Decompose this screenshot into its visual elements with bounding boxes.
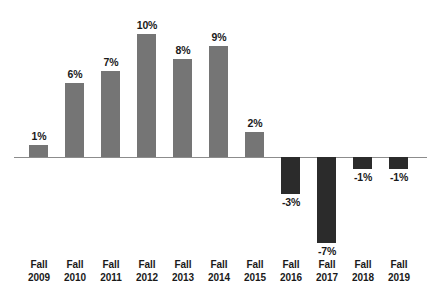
plot-area: 1%6%7%10%8%9%2%-3%-7%-1%-1% bbox=[0, 0, 436, 255]
category-label-line: Fall bbox=[237, 258, 273, 271]
category-label-line: 2009 bbox=[21, 271, 57, 284]
bar-group: 1% bbox=[21, 0, 57, 255]
category-label-line: Fall bbox=[165, 258, 201, 271]
bar[interactable] bbox=[101, 71, 120, 157]
bar[interactable] bbox=[209, 46, 228, 157]
category-label-line: 2014 bbox=[201, 271, 237, 284]
category-label-line: 2012 bbox=[129, 271, 165, 284]
bar[interactable] bbox=[173, 59, 192, 157]
bar-value-label: -3% bbox=[273, 196, 309, 208]
category-label-line: 2010 bbox=[57, 271, 93, 284]
bar[interactable] bbox=[317, 157, 336, 243]
bar-value-label: 10% bbox=[129, 19, 165, 31]
bar[interactable] bbox=[29, 145, 48, 157]
bar-value-label: 2% bbox=[237, 117, 273, 129]
bar-value-label: 1% bbox=[21, 130, 57, 142]
category-label: Fall2014 bbox=[201, 258, 237, 284]
category-label-line: 2019 bbox=[381, 271, 417, 284]
category-label-line: Fall bbox=[381, 258, 417, 271]
bar-chart: 1%6%7%10%8%9%2%-3%-7%-1%-1% Fall2009Fall… bbox=[0, 0, 436, 302]
category-label-line: 2016 bbox=[273, 271, 309, 284]
bar-value-label: 9% bbox=[201, 31, 237, 43]
category-label-line: Fall bbox=[273, 258, 309, 271]
bar-group: -1% bbox=[381, 0, 417, 255]
bar[interactable] bbox=[353, 157, 372, 169]
bar[interactable] bbox=[65, 83, 84, 157]
bar-group: 10% bbox=[129, 0, 165, 255]
bar-group: 2% bbox=[237, 0, 273, 255]
category-label-line: Fall bbox=[57, 258, 93, 271]
category-label: Fall2018 bbox=[345, 258, 381, 284]
bar[interactable] bbox=[389, 157, 408, 169]
bar-value-label: -7% bbox=[309, 245, 345, 257]
category-label: Fall2010 bbox=[57, 258, 93, 284]
category-label-line: Fall bbox=[345, 258, 381, 271]
bar-group: 7% bbox=[93, 0, 129, 255]
bar-group: -1% bbox=[345, 0, 381, 255]
category-label-line: 2011 bbox=[93, 271, 129, 284]
category-label: Fall2011 bbox=[93, 258, 129, 284]
category-label: Fall2013 bbox=[165, 258, 201, 284]
bar-value-label: 6% bbox=[57, 68, 93, 80]
category-label: Fall2019 bbox=[381, 258, 417, 284]
bar-value-label: -1% bbox=[345, 171, 381, 183]
bar-group: 9% bbox=[201, 0, 237, 255]
category-label-line: 2018 bbox=[345, 271, 381, 284]
category-label-line: 2013 bbox=[165, 271, 201, 284]
category-label: Fall2016 bbox=[273, 258, 309, 284]
bar-group: 8% bbox=[165, 0, 201, 255]
category-label-line: 2015 bbox=[237, 271, 273, 284]
category-label-line: Fall bbox=[309, 258, 345, 271]
bar-group: 6% bbox=[57, 0, 93, 255]
bar[interactable] bbox=[245, 132, 264, 157]
bar-group: -3% bbox=[273, 0, 309, 255]
bar[interactable] bbox=[281, 157, 300, 194]
bar[interactable] bbox=[137, 34, 156, 157]
category-label-line: 2017 bbox=[309, 271, 345, 284]
category-label: Fall2017 bbox=[309, 258, 345, 284]
bar-value-label: 8% bbox=[165, 44, 201, 56]
category-label-line: Fall bbox=[21, 258, 57, 271]
bar-group: -7% bbox=[309, 0, 345, 255]
category-axis: Fall2009Fall2010Fall2011Fall2012Fall2013… bbox=[0, 258, 436, 302]
bar-value-label: -1% bbox=[381, 171, 417, 183]
category-label-line: Fall bbox=[201, 258, 237, 271]
category-label: Fall2015 bbox=[237, 258, 273, 284]
category-label: Fall2012 bbox=[129, 258, 165, 284]
category-label-line: Fall bbox=[93, 258, 129, 271]
bar-value-label: 7% bbox=[93, 56, 129, 68]
category-label: Fall2009 bbox=[21, 258, 57, 284]
category-label-line: Fall bbox=[129, 258, 165, 271]
